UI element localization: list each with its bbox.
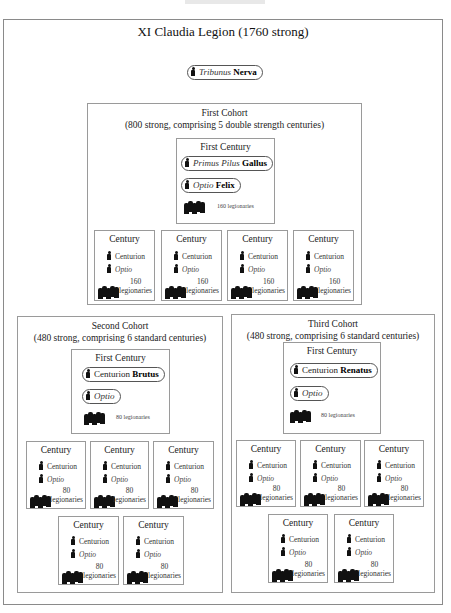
century-title: Century <box>365 444 423 454</box>
legionaries-unit: legionaries <box>318 286 351 295</box>
century-box: Century Centurion Optio 160legionaries <box>293 230 354 301</box>
optio-label: Optio <box>248 265 265 274</box>
person-icon <box>306 251 310 260</box>
legionaries-icon <box>98 286 120 297</box>
legion-title: XI Claudia Legion (1760 strong) <box>4 24 442 40</box>
optio-pill: Optio Felix <box>181 178 241 193</box>
optio-label: Optio <box>115 265 132 274</box>
optio-row: Optio <box>103 474 128 484</box>
optio-label: Optio <box>111 475 128 484</box>
legionaries-count: 160 <box>318 277 351 286</box>
legionaries-unit: legionaries <box>292 569 325 578</box>
person-icon <box>313 460 317 469</box>
legionaries-count: 160 <box>119 277 152 286</box>
legionaries-count: 80 <box>148 562 181 571</box>
century-title: Century <box>59 520 118 530</box>
person-icon <box>174 251 178 260</box>
optio-label: Optio <box>355 548 372 557</box>
optio-label: Optio <box>182 265 199 274</box>
optio-label: Optio <box>314 265 331 274</box>
legionaries-count: 80 <box>83 562 116 571</box>
person-icon <box>103 474 107 483</box>
legionaries-icon <box>231 286 253 297</box>
person-icon <box>136 536 140 545</box>
optio-row: Optio <box>347 547 372 557</box>
legionaries-icon <box>368 493 390 504</box>
legionaries-icon <box>240 493 262 504</box>
centurion-row: Centurion <box>347 534 385 544</box>
optio-row: Optio <box>107 264 132 274</box>
legionaries-icon <box>304 493 326 504</box>
person-icon <box>166 461 170 470</box>
centurion-row: Centurion <box>313 460 351 470</box>
legionaries-label: 80legionaries <box>260 484 293 502</box>
legionaries-count: 80 <box>292 560 325 569</box>
optio-label: Optio <box>385 474 402 483</box>
cohort-subtitle: (480 strong, comprising 6 standard centu… <box>232 330 434 342</box>
tribune-pill: Tribunus Nerva <box>187 65 263 80</box>
centurion-row: Centurion <box>249 460 287 470</box>
officer-rank: Centurion <box>302 365 338 375</box>
optio-row: Optio <box>39 474 64 484</box>
legionaries-label: 160legionaries <box>252 277 285 295</box>
person-icon <box>377 473 381 482</box>
century-title: Century <box>91 445 148 455</box>
person-icon <box>39 461 43 470</box>
optio-label: Optio <box>144 550 161 559</box>
person-icon <box>347 534 351 543</box>
legionaries-icon <box>297 286 319 297</box>
person-icon <box>86 369 90 378</box>
tribune-name: Nerva <box>233 67 257 77</box>
person-icon <box>306 264 310 273</box>
centurion-row: Centurion <box>166 461 204 471</box>
person-icon <box>377 460 381 469</box>
person-icon <box>185 180 189 189</box>
optio-row: Optio <box>240 264 265 274</box>
centurion-row: Centurion <box>71 536 109 546</box>
legionaries-count: 80 <box>50 486 83 495</box>
legionaries-icon <box>272 569 294 580</box>
person-icon <box>240 251 244 260</box>
legionaries-label: 80legionaries <box>83 562 116 580</box>
cohort-subtitle: (800 strong, comprising 5 double strengt… <box>88 119 361 131</box>
first-century-title: First Century <box>177 142 274 152</box>
officer-name: Renatus <box>340 365 372 375</box>
optio-pill: Optio <box>290 386 329 401</box>
optio-row: Optio <box>306 264 331 274</box>
legionaries-label: 80legionaries <box>113 486 146 504</box>
centurion-label: Centurion <box>174 462 204 471</box>
century-box: Century Centurion Optio 160legionaries <box>161 230 222 301</box>
legionaries-icon <box>184 201 206 212</box>
person-icon <box>249 473 253 482</box>
centurion-label: Centurion <box>257 461 287 470</box>
century-box: Century Centurion Optio 80legionaries <box>90 441 149 509</box>
legionaries-icon <box>338 569 360 580</box>
officer-rank: Optio <box>302 388 323 398</box>
centurion-row: Centurion <box>306 251 344 261</box>
legionaries-unit: legionaries <box>119 286 152 295</box>
century-title: Century <box>269 518 327 528</box>
officer-name: Gallus <box>242 158 267 168</box>
legionaries-label: 80legionaries <box>178 486 211 504</box>
legionaries-count: 80 <box>113 486 146 495</box>
tribune-rank: Tribunus <box>199 67 231 77</box>
centurion-label: Centurion <box>115 252 145 261</box>
legionaries-label: 80legionaries <box>148 562 181 580</box>
century-box: Century Centurion Optio 80legionaries <box>123 516 184 585</box>
person-icon <box>86 391 90 400</box>
centurion-label: Centurion <box>144 537 174 546</box>
century-box: Century Centurion Optio 80legionaries <box>334 514 394 583</box>
century-title: Century <box>301 444 360 454</box>
centurion-label: Centurion <box>111 462 141 471</box>
legionaries-unit: legionaries <box>148 571 181 580</box>
centurion-label: Centurion <box>47 462 77 471</box>
first-century-title: First Century <box>72 353 169 363</box>
person-icon <box>281 547 285 556</box>
legionaries-unit: legionaries <box>113 495 146 504</box>
officer-rank: Optio <box>94 391 115 401</box>
person-icon <box>136 549 140 558</box>
optio-pill: Optio <box>82 389 121 404</box>
cohort-title: Second Cohort <box>18 320 222 332</box>
person-icon <box>185 158 189 167</box>
officer-name: Felix <box>216 180 235 190</box>
